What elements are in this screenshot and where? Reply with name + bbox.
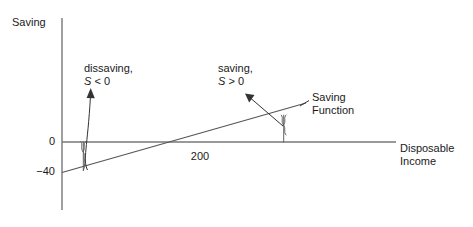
saving-function-chart: Saving Disposable Income 0 −40 200 dissa…: [0, 0, 473, 227]
dissaving-annotation-line1: dissaving,: [84, 62, 133, 75]
saving-annotation-line2: S > 0: [218, 75, 244, 88]
y-tick-label-zero: 0: [22, 135, 55, 148]
saving-function-label-line2: Function: [312, 104, 354, 117]
x-axis-label-line2: Income: [400, 155, 436, 168]
saving-pointer-line: [251, 99, 283, 127]
chart-canvas: [0, 0, 473, 227]
saving-function-leader-line: [300, 101, 309, 107]
saving-pointer-arrowhead: [245, 94, 255, 103]
dissaving-annotation-relation: < 0: [91, 75, 110, 87]
x-tick-label-two-hundred: 200: [180, 150, 220, 163]
saving-annotation-line1: saving,: [218, 62, 253, 75]
saving-annotation-relation: > 0: [225, 75, 244, 87]
saving-function-label-line1: Saving: [312, 91, 346, 104]
y-tick-label-minus-forty: −40: [12, 165, 55, 178]
dissaving-pointer-arrowhead: [87, 88, 95, 98]
y-axis-label: Saving: [12, 16, 46, 29]
x-axis-label-line1: Disposable: [400, 142, 454, 155]
dissaving-annotation-line2: S < 0: [84, 75, 110, 88]
dissaving-pointer-line: [85, 96, 90, 170]
